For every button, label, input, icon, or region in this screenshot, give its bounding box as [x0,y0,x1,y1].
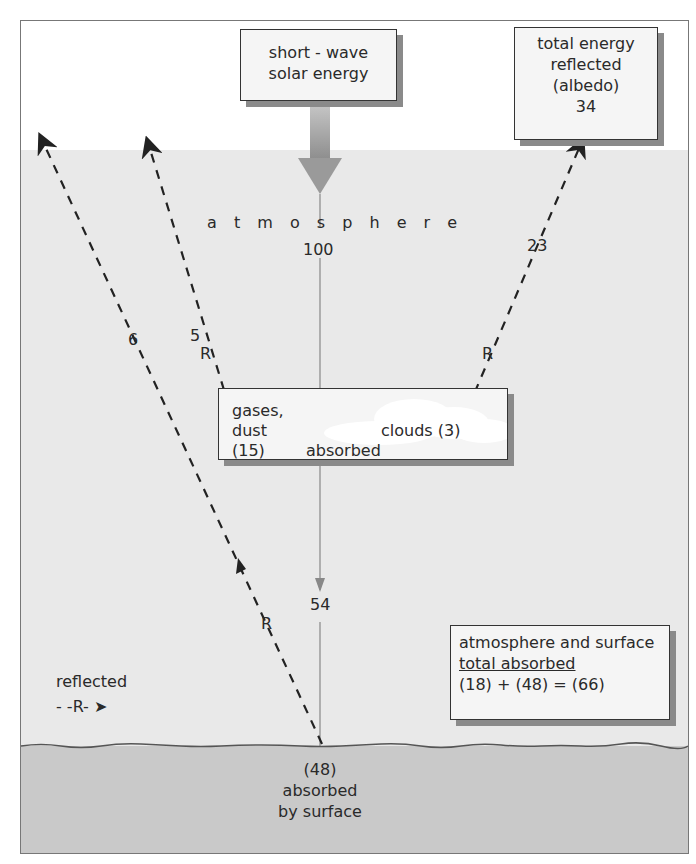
albedo-line3: (albedo) [515,75,657,96]
surface-absorbed-value: (48) [270,760,370,780]
albedo-value: 34 [515,96,657,117]
reflected-arrow-inner [149,146,224,390]
albedo-line2: reflected [515,54,657,75]
inner-reflected-value: 5 [190,326,200,346]
ground-surface-line [21,743,688,749]
clouds-reflected-marker: R [482,344,493,364]
atmosphere-label: a t m o s p h e r e [207,213,463,233]
surface-absorbed-label2: by surface [260,802,380,822]
clouds-reflected-value: 23 [527,236,547,256]
dust-label: dust [232,421,267,441]
absorbed-label: absorbed [306,441,381,460]
gases-label: gases, [232,401,284,421]
solar-energy-box: short - wave solar energy [240,29,397,101]
summary-line3: (18) + (48) = (66) [459,674,669,695]
reflected-arrow-clouds [468,146,580,408]
incoming-value: 100 [303,240,334,260]
solar-box-line2: solar energy [241,63,396,84]
inner-reflected-marker: R [200,344,211,364]
legend-label: reflected [56,672,127,692]
surface-absorbed-label1: absorbed [260,781,380,801]
gases-value: (15) [232,441,265,460]
clouds-label: clouds (3) [381,421,460,441]
surface-reflect-marker: R [261,614,272,634]
albedo-line1: total energy [515,33,657,54]
atmosphere-absorbed-box: gases, dust (15) clouds (3) absorbed [218,388,508,460]
legend-symbol: - -R- ➤ [56,697,107,717]
summary-line2: total absorbed [459,653,669,674]
solar-box-line1: short - wave [241,42,396,63]
summary-line1: atmosphere and surface [459,632,669,653]
total-absorbed-box: atmosphere and surface total absorbed (1… [450,625,670,720]
outer-reflected-value: 6 [128,330,138,350]
albedo-box: total energy reflected (albedo) 34 [514,27,658,140]
incoming-solar-arrow-icon [298,106,342,194]
transmitted-value: 54 [310,595,330,615]
